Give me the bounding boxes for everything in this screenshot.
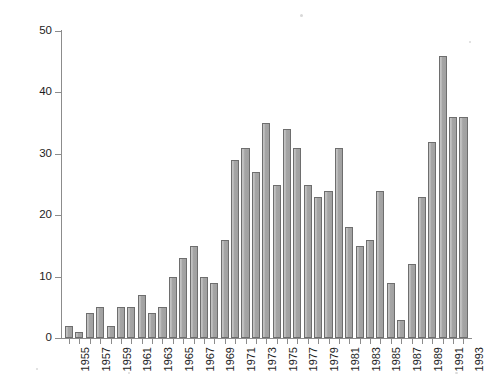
- x-axis-tick: [339, 339, 340, 344]
- bar: [127, 307, 135, 338]
- bar: [262, 123, 270, 338]
- y-axis-tick-label: 10: [30, 270, 52, 282]
- bar: [231, 160, 239, 338]
- x-axis-tick-label: 1963: [162, 347, 174, 379]
- x-axis-tick: [391, 339, 392, 344]
- bar: [158, 307, 166, 338]
- x-axis-tick: [256, 339, 257, 344]
- bar: [366, 240, 374, 338]
- x-axis-tick: [69, 339, 70, 344]
- bar: [107, 326, 115, 338]
- bar: [283, 129, 291, 338]
- x-axis-tick: [380, 339, 381, 344]
- x-axis-tick: [443, 339, 444, 344]
- scan-speckle: [455, 372, 458, 374]
- x-axis-tick: [297, 339, 298, 344]
- x-axis-tick-label: 1985: [390, 347, 402, 379]
- x-axis-tick-label: 1987: [411, 347, 423, 379]
- x-axis-tick: [173, 339, 174, 344]
- x-axis-tick: [100, 339, 101, 344]
- x-axis-tick: [194, 339, 195, 344]
- x-axis-tick: [111, 339, 112, 344]
- x-axis-tick-label: 1979: [328, 347, 340, 379]
- x-axis-tick-label: 1973: [266, 347, 278, 379]
- scan-speckle: [300, 14, 303, 17]
- bar: [65, 326, 73, 338]
- y-axis-tick-label: 50: [30, 24, 52, 36]
- bar: [148, 313, 156, 338]
- plot-area: [62, 31, 472, 338]
- x-axis-tick: [121, 339, 122, 344]
- bar: [408, 264, 416, 338]
- y-axis-tick: [55, 92, 62, 93]
- bar: [324, 191, 332, 338]
- bar: [179, 258, 187, 338]
- bar: [449, 117, 457, 338]
- x-axis-tick: [360, 339, 361, 344]
- x-axis-tick: [142, 339, 143, 344]
- bar: [138, 295, 146, 338]
- bar: [345, 227, 353, 338]
- bar: [200, 277, 208, 338]
- y-axis-tick: [55, 154, 62, 155]
- bar: [335, 148, 343, 338]
- bar: [75, 332, 83, 338]
- bar: [428, 142, 436, 338]
- y-axis-tick: [55, 277, 62, 278]
- x-axis-tick: [204, 339, 205, 344]
- x-axis-tick: [152, 339, 153, 344]
- bar: [169, 277, 177, 338]
- x-axis-tick-label: 1977: [307, 347, 319, 379]
- x-axis-tick: [131, 339, 132, 344]
- scan-speckle: [469, 41, 471, 43]
- y-axis-tick-label: 0: [30, 331, 52, 343]
- bar: [439, 56, 447, 338]
- x-axis-tick: [287, 339, 288, 344]
- paper-count-bar-chart: Number of papers 01020304050 19551957195…: [0, 0, 485, 379]
- bar: [273, 185, 281, 339]
- x-axis-tick-label: 1989: [432, 347, 444, 379]
- bar: [304, 185, 312, 339]
- x-axis-tick-label: 1993: [473, 347, 485, 379]
- x-axis-tick: [79, 339, 80, 344]
- x-axis-tick: [235, 339, 236, 344]
- x-axis-tick-label: 1967: [204, 347, 216, 379]
- bar: [190, 246, 198, 338]
- x-axis-tick: [183, 339, 184, 344]
- x-axis-tick: [225, 339, 226, 344]
- scan-speckle: [36, 368, 38, 370]
- x-axis-tick: [90, 339, 91, 344]
- bar: [117, 307, 125, 338]
- x-axis-tick-label: 1981: [349, 347, 361, 379]
- x-axis-tick-label: 1991: [453, 347, 465, 379]
- x-axis-tick-label: 1965: [183, 347, 195, 379]
- x-axis-tick-label: 1957: [100, 347, 112, 379]
- bar: [221, 240, 229, 338]
- y-axis-tick: [55, 31, 62, 32]
- bar: [356, 246, 364, 338]
- bar: [397, 320, 405, 338]
- y-axis-tick-label: 30: [30, 147, 52, 159]
- x-axis-tick: [401, 339, 402, 344]
- bar: [376, 191, 384, 338]
- x-axis-tick: [463, 339, 464, 344]
- x-axis-tick: [349, 339, 350, 344]
- bar: [252, 172, 260, 338]
- y-axis-tick: [55, 338, 62, 339]
- x-axis-tick-label: 1969: [224, 347, 236, 379]
- x-axis-tick: [432, 339, 433, 344]
- bar: [387, 283, 395, 338]
- bar: [210, 283, 218, 338]
- bar: [96, 307, 104, 338]
- x-axis-tick: [329, 339, 330, 344]
- x-axis-tick: [318, 339, 319, 344]
- bar: [459, 117, 467, 338]
- y-axis-tick: [55, 215, 62, 216]
- x-axis-tick: [214, 339, 215, 344]
- bar: [418, 197, 426, 338]
- x-axis-tick-label: 1975: [287, 347, 299, 379]
- scan-speckle: [128, 372, 130, 374]
- x-axis-tick: [453, 339, 454, 344]
- bar: [86, 313, 94, 338]
- bar: [241, 148, 249, 338]
